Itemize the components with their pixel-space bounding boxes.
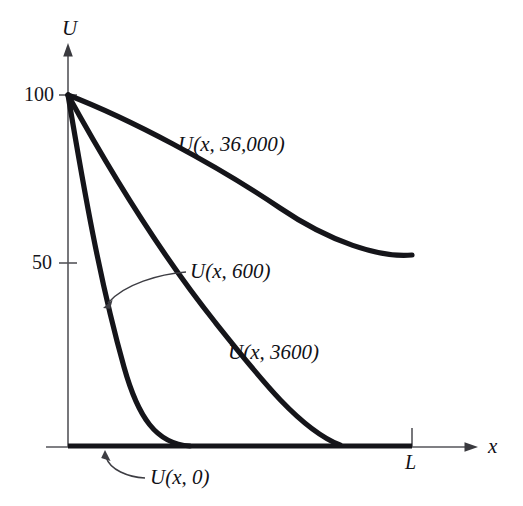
curve-label-u-0: U(x, 0)	[150, 467, 209, 488]
y-axis-label: U	[62, 18, 77, 39]
y-tick-label-100: 100	[24, 84, 54, 104]
figure-canvas: U x 100 50 L U(x, 36,000) U(x, 3600) U(x…	[0, 0, 523, 506]
curve-u-36000	[68, 95, 412, 255]
y-axis-arrowhead	[63, 43, 73, 57]
curve-label-u-3600: U(x, 3600)	[228, 342, 319, 363]
y-tick-label-50: 50	[32, 252, 52, 272]
x-axis-arrowhead	[465, 442, 479, 452]
curve-label-u-36000: U(x, 36,000)	[178, 134, 285, 155]
plot-svg	[0, 0, 523, 506]
curve-label-u-600: U(x, 600)	[190, 261, 270, 282]
x-tick-label-L: L	[405, 452, 416, 472]
leader-u-600	[108, 272, 186, 303]
leader-u-0	[106, 457, 145, 478]
curve-u-600	[68, 95, 190, 446]
leader-head-u-0	[101, 450, 110, 461]
x-axis-label: x	[488, 436, 497, 457]
